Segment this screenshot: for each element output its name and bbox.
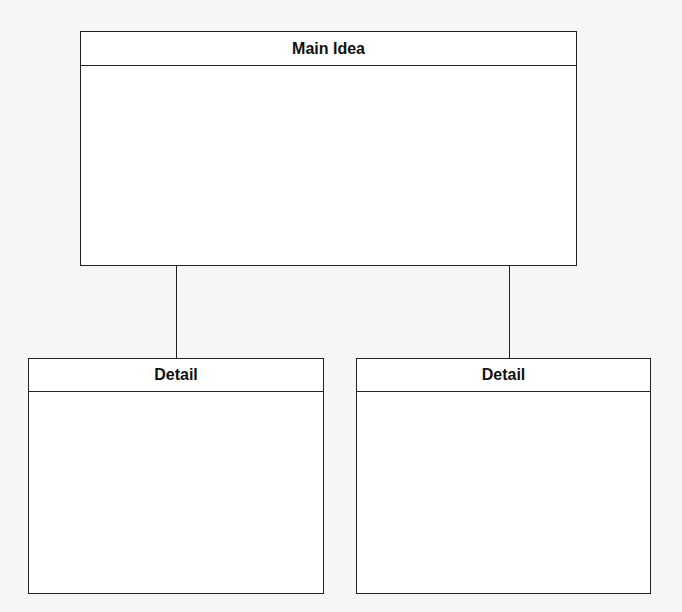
detail-box-right: Detail	[356, 358, 651, 594]
detail-body-left[interactable]	[29, 392, 323, 593]
main-idea-body[interactable]	[81, 66, 576, 265]
detail-title-right: Detail	[482, 366, 526, 384]
main-idea-title: Main Idea	[292, 40, 365, 58]
detail-title-left: Detail	[154, 366, 198, 384]
connector-left	[176, 265, 177, 359]
detail-box-left: Detail	[28, 358, 324, 594]
main-idea-header: Main Idea	[81, 32, 576, 66]
detail-header-right: Detail	[357, 359, 650, 392]
detail-header-left: Detail	[29, 359, 323, 392]
main-idea-box: Main Idea	[80, 31, 577, 266]
connector-right	[509, 265, 510, 359]
detail-body-right[interactable]	[357, 392, 650, 593]
